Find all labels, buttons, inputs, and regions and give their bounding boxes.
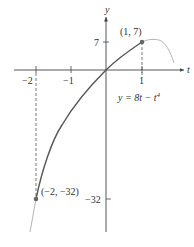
tick-label-neg1: −1 (63, 75, 74, 86)
y-axis-label: y (104, 4, 110, 15)
point-min (34, 197, 39, 202)
curve-main (36, 42, 142, 199)
equation-label: y = 8t − t4 (117, 91, 161, 103)
point-max (140, 40, 145, 45)
t-axis-label: t (187, 64, 190, 75)
curve-extension-right (142, 39, 174, 63)
tick-label-1: 1 (139, 75, 144, 86)
tick-label-y-neg32: −32 (85, 194, 101, 205)
curve-extension-left (30, 199, 36, 232)
point-min-label: (−2, −32) (41, 186, 79, 198)
function-graph: y t −2 −1 1 7 −32 (1, 7) (−2, −32) y = 8… (0, 0, 194, 247)
tick-label-y7: 7 (94, 37, 99, 48)
point-max-label: (1, 7) (120, 26, 142, 38)
tick-label-neg2: −2 (22, 75, 33, 86)
